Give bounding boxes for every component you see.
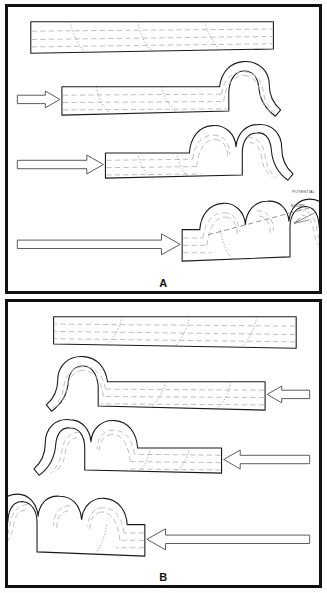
panel-b-canvas bbox=[8, 302, 319, 586]
stage-3-group bbox=[17, 125, 293, 181]
panel-a-label: A bbox=[8, 277, 319, 289]
fold-outline-stage4-b bbox=[8, 494, 145, 556]
stage-4-group-b bbox=[8, 494, 310, 556]
fold-outline-stage3-b bbox=[34, 419, 222, 475]
fold-outline-stage4 bbox=[182, 199, 319, 261]
fold-outline-stage3 bbox=[105, 125, 293, 181]
fold-outline-stage2 bbox=[62, 62, 281, 117]
slab-outline-stage1 bbox=[31, 22, 274, 54]
annotation-potential: POTENTIAL bbox=[292, 190, 315, 194]
compression-arrow-stage4-b bbox=[147, 528, 310, 549]
compression-arrow-stage4 bbox=[17, 234, 180, 255]
panel-a-canvas: .out{fill:#fff;stroke:#1a1a1a;stroke-wid… bbox=[8, 7, 319, 291]
panel-b-svg bbox=[8, 302, 319, 586]
stage-1-group-b bbox=[54, 316, 297, 348]
panel-b: B bbox=[5, 299, 322, 589]
slab-outline-stage1-b bbox=[54, 316, 297, 348]
stage-3-group-b bbox=[34, 419, 310, 475]
figure-root: .out{fill:#fff;stroke:#1a1a1a;stroke-wid… bbox=[0, 0, 327, 593]
fold-outline-stage2-b bbox=[46, 356, 265, 411]
compression-arrow-stage3 bbox=[17, 155, 103, 174]
panel-a-svg: .out{fill:#fff;stroke:#1a1a1a;stroke-wid… bbox=[8, 7, 319, 291]
annotation-leader-line bbox=[294, 213, 315, 224]
compression-arrow-stage2-b bbox=[267, 386, 310, 403]
panel-a: .out{fill:#fff;stroke:#1a1a1a;stroke-wid… bbox=[5, 4, 322, 294]
stage-2-group-b bbox=[46, 356, 309, 411]
stage-2-group bbox=[17, 62, 280, 117]
stage-4-group bbox=[17, 199, 319, 261]
panel-b-label: B bbox=[8, 571, 319, 583]
compression-arrow-stage3-b bbox=[224, 450, 310, 469]
compression-arrow-stage2 bbox=[17, 91, 60, 108]
stage-1-group bbox=[31, 22, 274, 54]
annotation-slump: SLUMP bbox=[291, 204, 305, 208]
